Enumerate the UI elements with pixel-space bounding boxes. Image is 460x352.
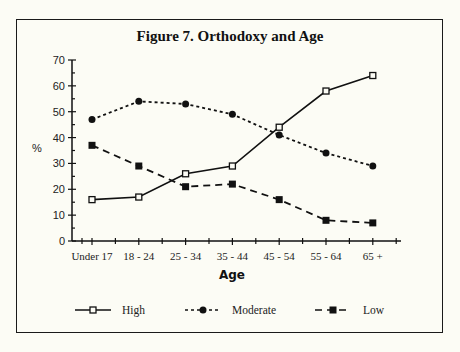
data-point bbox=[276, 124, 282, 130]
data-point bbox=[89, 142, 96, 149]
legend-item-low: Low bbox=[315, 304, 385, 316]
data-point bbox=[182, 100, 189, 107]
data-point bbox=[135, 98, 142, 105]
data-point bbox=[229, 111, 236, 118]
y-tick-label: 40 bbox=[53, 132, 65, 144]
y-tick-label: 60 bbox=[53, 80, 65, 92]
legend-item-moderate: Moderate bbox=[185, 304, 276, 316]
y-tick-label: 20 bbox=[53, 183, 65, 195]
data-point bbox=[370, 73, 376, 79]
line-chart: 010203040506070%Under 1718 - 2425 - 3435… bbox=[0, 0, 460, 352]
x-tick-label: 18 - 24 bbox=[123, 250, 155, 262]
y-tick-label: 70 bbox=[53, 54, 65, 66]
data-point bbox=[229, 163, 235, 169]
data-point bbox=[183, 171, 189, 177]
data-point bbox=[323, 217, 330, 224]
data-point bbox=[229, 181, 236, 188]
data-point bbox=[323, 150, 330, 157]
x-tick-label: 35 - 44 bbox=[217, 250, 249, 262]
x-tick-label: Under 17 bbox=[71, 250, 113, 262]
data-point bbox=[276, 196, 283, 203]
data-point bbox=[369, 163, 376, 170]
legend-marker bbox=[90, 307, 96, 313]
data-point bbox=[136, 194, 142, 200]
y-tick-label: 0 bbox=[59, 235, 65, 247]
x-tick-label: 65 + bbox=[363, 250, 383, 262]
x-tick-label: 55 - 64 bbox=[310, 250, 342, 262]
legend-label: Low bbox=[363, 304, 385, 316]
x-axis-title: Age bbox=[219, 268, 245, 282]
series-lines bbox=[89, 73, 377, 227]
data-point bbox=[369, 219, 376, 226]
legend-marker bbox=[330, 307, 337, 314]
data-point bbox=[323, 88, 329, 94]
legend: HighModerateLow bbox=[75, 304, 385, 317]
x-tick-label: 45 - 54 bbox=[264, 250, 296, 262]
y-tick-label: 50 bbox=[53, 106, 65, 118]
data-point bbox=[276, 131, 283, 138]
y-axis-title: % bbox=[32, 142, 42, 154]
legend-label: Moderate bbox=[232, 304, 276, 316]
data-point bbox=[89, 197, 95, 203]
legend-item-high: High bbox=[75, 304, 145, 317]
data-point bbox=[89, 116, 96, 123]
data-point bbox=[135, 163, 142, 170]
legend-marker bbox=[200, 307, 207, 314]
y-tick-label: 30 bbox=[53, 157, 65, 169]
legend-label: High bbox=[122, 304, 145, 317]
series-moderate bbox=[89, 98, 377, 170]
data-point bbox=[182, 183, 189, 190]
y-tick-label: 10 bbox=[53, 209, 65, 221]
x-tick-label: 25 - 34 bbox=[170, 250, 202, 262]
